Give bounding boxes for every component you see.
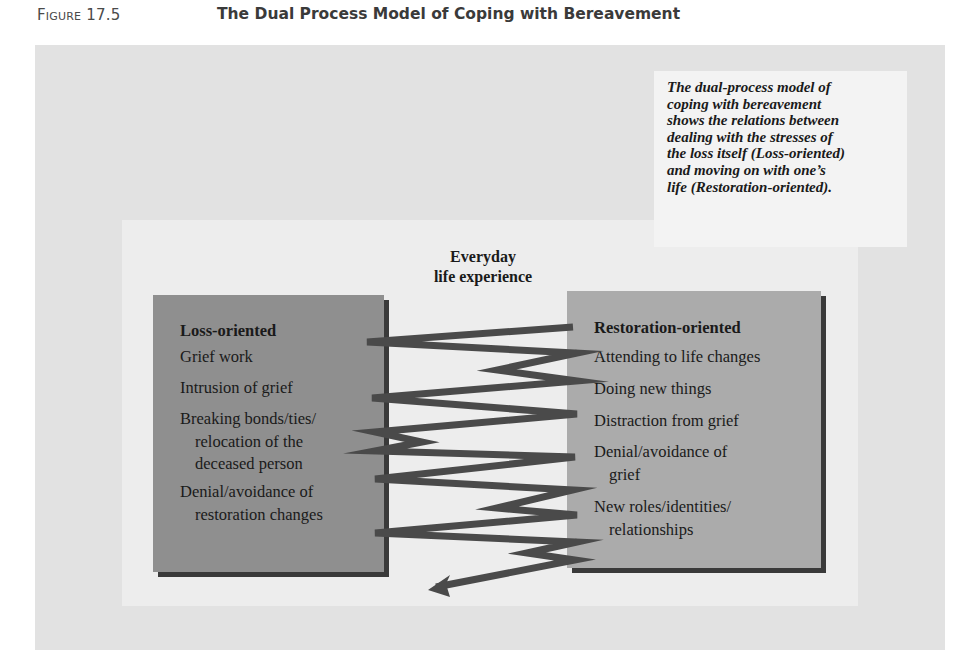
everyday-life-label: Everyday life experience xyxy=(393,247,573,287)
caption-line: coping with bereavement xyxy=(667,96,903,113)
restoration-item-denial-grief: Denial/avoidance of grief xyxy=(594,441,727,486)
everyday-label-line: Everyday xyxy=(393,247,573,267)
restoration-item-life-changes: Attending to life changes xyxy=(594,346,760,369)
item-text: Doing new things xyxy=(594,379,711,398)
restoration-oriented-box: Restoration-oriented Attending to life c… xyxy=(567,291,821,568)
caption-line: The dual-process model of xyxy=(667,79,903,96)
caption-line: the loss itself (Loss-oriented) xyxy=(667,145,903,162)
item-text-continued: relationships xyxy=(594,519,731,542)
item-text: Grief work xyxy=(180,347,253,366)
loss-item-denial-restoration: Denial/avoidance of restoration changes xyxy=(180,481,323,526)
caption-line: dealing with the stresses of xyxy=(667,129,903,146)
figure-title: The Dual Process Model of Coping with Be… xyxy=(217,5,680,23)
restoration-item-new-things: Doing new things xyxy=(594,378,711,401)
caption-line: and moving on with one’s xyxy=(667,162,903,179)
caption-text: The dual-process model of coping with be… xyxy=(667,79,903,195)
restoration-oriented-heading: Restoration-oriented xyxy=(594,318,741,338)
everyday-label-line: life experience xyxy=(393,267,573,287)
restoration-item-distraction: Distraction from grief xyxy=(594,410,739,433)
item-text-continued: deceased person xyxy=(180,453,316,476)
caption-line: life (Restoration-oriented). xyxy=(667,179,903,196)
item-text-continued: restoration changes xyxy=(180,504,323,527)
caption-box: The dual-process model of coping with be… xyxy=(654,71,907,247)
item-text: Attending to life changes xyxy=(594,347,760,366)
restoration-item-new-roles: New roles/identities/ relationships xyxy=(594,496,731,541)
item-text-continued: grief xyxy=(594,464,727,487)
item-text: New roles/identities/ xyxy=(594,496,731,519)
item-text: Breaking bonds/ties/ xyxy=(180,408,316,431)
item-text: Denial/avoidance of xyxy=(594,441,727,464)
loss-item-grief-work: Grief work xyxy=(180,346,253,369)
loss-oriented-box: Loss-oriented Grief work Intrusion of gr… xyxy=(153,295,384,572)
figure-label: Figure 17.5 xyxy=(37,6,120,24)
loss-item-breaking-bonds: Breaking bonds/ties/ relocation of the d… xyxy=(180,408,316,476)
loss-oriented-heading: Loss-oriented xyxy=(180,321,276,341)
item-text: Distraction from grief xyxy=(594,411,739,430)
loss-item-intrusion: Intrusion of grief xyxy=(180,377,293,400)
caption-line: shows the relations between xyxy=(667,112,903,129)
item-text: Denial/avoidance of xyxy=(180,481,323,504)
item-text: Intrusion of grief xyxy=(180,378,293,397)
item-text-continued: relocation of the xyxy=(180,431,316,454)
